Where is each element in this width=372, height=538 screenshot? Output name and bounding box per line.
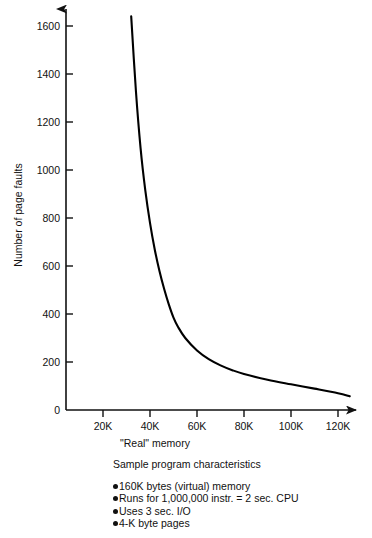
y-axis-ticks xyxy=(66,26,73,362)
caption-heading: Sample program characteristics xyxy=(113,458,363,471)
caption-bullet-list: 160K bytes (virtual) memory Runs for 1,0… xyxy=(113,480,363,530)
list-item-label: Runs for 1,000,000 instr. = 2 sec. CPU xyxy=(119,492,298,504)
page-fault-curve xyxy=(131,16,350,396)
x-tick-label-80K: 80K xyxy=(235,420,254,432)
list-item: Uses 3 sec. I/O xyxy=(113,505,363,517)
y-tick-label-800: 800 xyxy=(42,212,60,224)
x-tick-label-100K: 100K xyxy=(279,420,304,432)
list-item-label: 160K bytes (virtual) memory xyxy=(119,480,250,492)
y-tick-label-600: 600 xyxy=(42,260,60,272)
x-tick-label-120K: 120K xyxy=(326,420,351,432)
x-tick-label-20K: 20K xyxy=(94,420,113,432)
x-tick-label-40K: 40K xyxy=(141,420,160,432)
list-item: 160K bytes (virtual) memory xyxy=(113,480,363,492)
y-axis-title: Number of page faults xyxy=(12,163,24,266)
x-axis-ticks xyxy=(103,410,338,417)
y-axis-tick-labels: 1600 1400 1200 1000 800 600 400 200 0 xyxy=(37,20,61,416)
x-tick-label-60K: 60K xyxy=(188,420,207,432)
y-tick-label-1200: 1200 xyxy=(37,116,61,128)
x-axis-title: "Real" memory xyxy=(120,437,191,449)
y-tick-label-1000: 1000 xyxy=(37,164,61,176)
x-axis-tick-labels: 20K 40K 60K 80K 100K 120K xyxy=(94,420,351,432)
list-item-label: 4-K byte pages xyxy=(119,517,190,529)
list-item-label: Uses 3 sec. I/O xyxy=(119,505,191,517)
caption-block: Sample program characteristics 160K byte… xyxy=(113,458,363,530)
page-fault-figure: 1600 1400 1200 1000 800 600 400 200 0 20… xyxy=(0,0,372,538)
y-tick-label-1400: 1400 xyxy=(37,68,61,80)
bullet-dot-icon xyxy=(113,521,118,526)
list-item: Runs for 1,000,000 instr. = 2 sec. CPU xyxy=(113,492,363,504)
bullet-dot-icon xyxy=(113,496,118,501)
y-tick-label-200: 200 xyxy=(42,356,60,368)
bullet-dot-icon xyxy=(113,484,118,489)
bullet-dot-icon xyxy=(113,509,118,514)
y-tick-label-400: 400 xyxy=(42,308,60,320)
list-item: 4-K byte pages xyxy=(113,517,363,529)
y-tick-label-1600: 1600 xyxy=(37,20,61,32)
y-tick-label-0: 0 xyxy=(54,404,60,416)
